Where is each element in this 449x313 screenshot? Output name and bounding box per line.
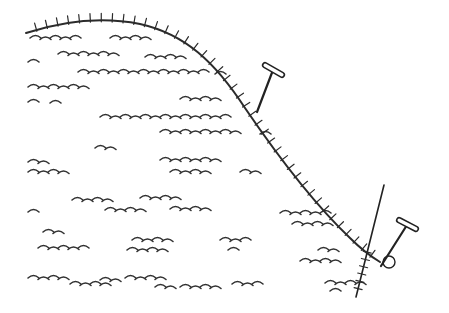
turf-marks [28, 36, 366, 292]
hatch-mark [201, 51, 207, 57]
turf-row [292, 222, 333, 226]
hatch-mark [353, 237, 359, 243]
stakes [257, 62, 419, 266]
hatch-mark [345, 229, 351, 235]
turf-row [38, 246, 89, 250]
upper-stake [257, 62, 285, 112]
turf-row [58, 52, 119, 56]
hatch-mark [223, 75, 230, 80]
turf-row [145, 55, 186, 59]
turf-row [318, 248, 339, 252]
turf-row [50, 101, 61, 104]
turf-row [140, 196, 181, 200]
stake-handle [396, 217, 419, 232]
turf-row [28, 160, 49, 164]
pole-shaft [356, 185, 384, 297]
turf-row [30, 36, 81, 40]
stake-shaft [257, 70, 273, 112]
turf-row [125, 276, 166, 280]
hatch-mark [330, 214, 336, 220]
turf-row [28, 85, 89, 89]
turf-row [330, 289, 341, 292]
turf-row [70, 282, 111, 286]
turf-row [72, 198, 113, 202]
turf-row [160, 158, 221, 162]
turf-row [180, 285, 221, 289]
turf-row [228, 248, 239, 251]
turf-row [105, 208, 146, 212]
turf-row [155, 285, 176, 289]
turf-row [95, 146, 116, 150]
turf-row [170, 207, 211, 211]
hatch-mark [337, 222, 343, 228]
hatch-mark [209, 58, 215, 64]
slope-hatch-marks [35, 13, 375, 257]
turf-row [180, 97, 221, 101]
slope-edge-line [26, 20, 380, 262]
turf-row [78, 70, 209, 74]
turf-row [28, 60, 39, 63]
turf-row [100, 278, 121, 282]
turf-row [43, 230, 64, 234]
turf-row [220, 238, 251, 242]
turf-row [132, 238, 173, 242]
turf-row [160, 130, 241, 134]
stake-handle [262, 62, 285, 78]
turf-row [110, 36, 151, 40]
turf-row [28, 170, 69, 174]
turf-row [240, 170, 261, 174]
turf-row [28, 210, 39, 213]
turf-row [127, 248, 168, 252]
turf-row [28, 276, 69, 280]
lower-stake [381, 217, 419, 266]
turf-row [232, 282, 263, 286]
turf-row [28, 100, 39, 103]
slope-diagram [0, 0, 449, 313]
turf-row [170, 170, 211, 174]
turf-row [300, 259, 341, 263]
measuring-pole [354, 185, 384, 297]
turf-row [100, 115, 231, 119]
